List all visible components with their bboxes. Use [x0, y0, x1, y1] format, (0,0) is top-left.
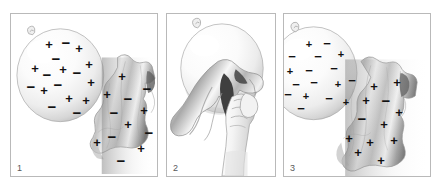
panel-1-number: 1: [17, 163, 22, 173]
panel-1-scene: [11, 14, 157, 176]
panel-3: +−−−++−−−−+−−+−−+ +++−+−++++++ 3: [283, 13, 431, 177]
panel-3-scene: [284, 14, 430, 176]
figure-root: +−+−++−−+−+−+++−− +−+−−++−−++− 1: [0, 0, 442, 190]
balloon-graphic: [17, 26, 104, 121]
cloth-graphic: [336, 57, 430, 176]
panel-3-number: 3: [290, 163, 295, 173]
panel-2-scene: [167, 14, 275, 176]
panel-2-number: 2: [173, 163, 178, 173]
panel-1: +−+−++−−+−+−+++−− +−+−−++−−++− 1: [10, 13, 158, 177]
panel-2: 2: [166, 13, 276, 177]
